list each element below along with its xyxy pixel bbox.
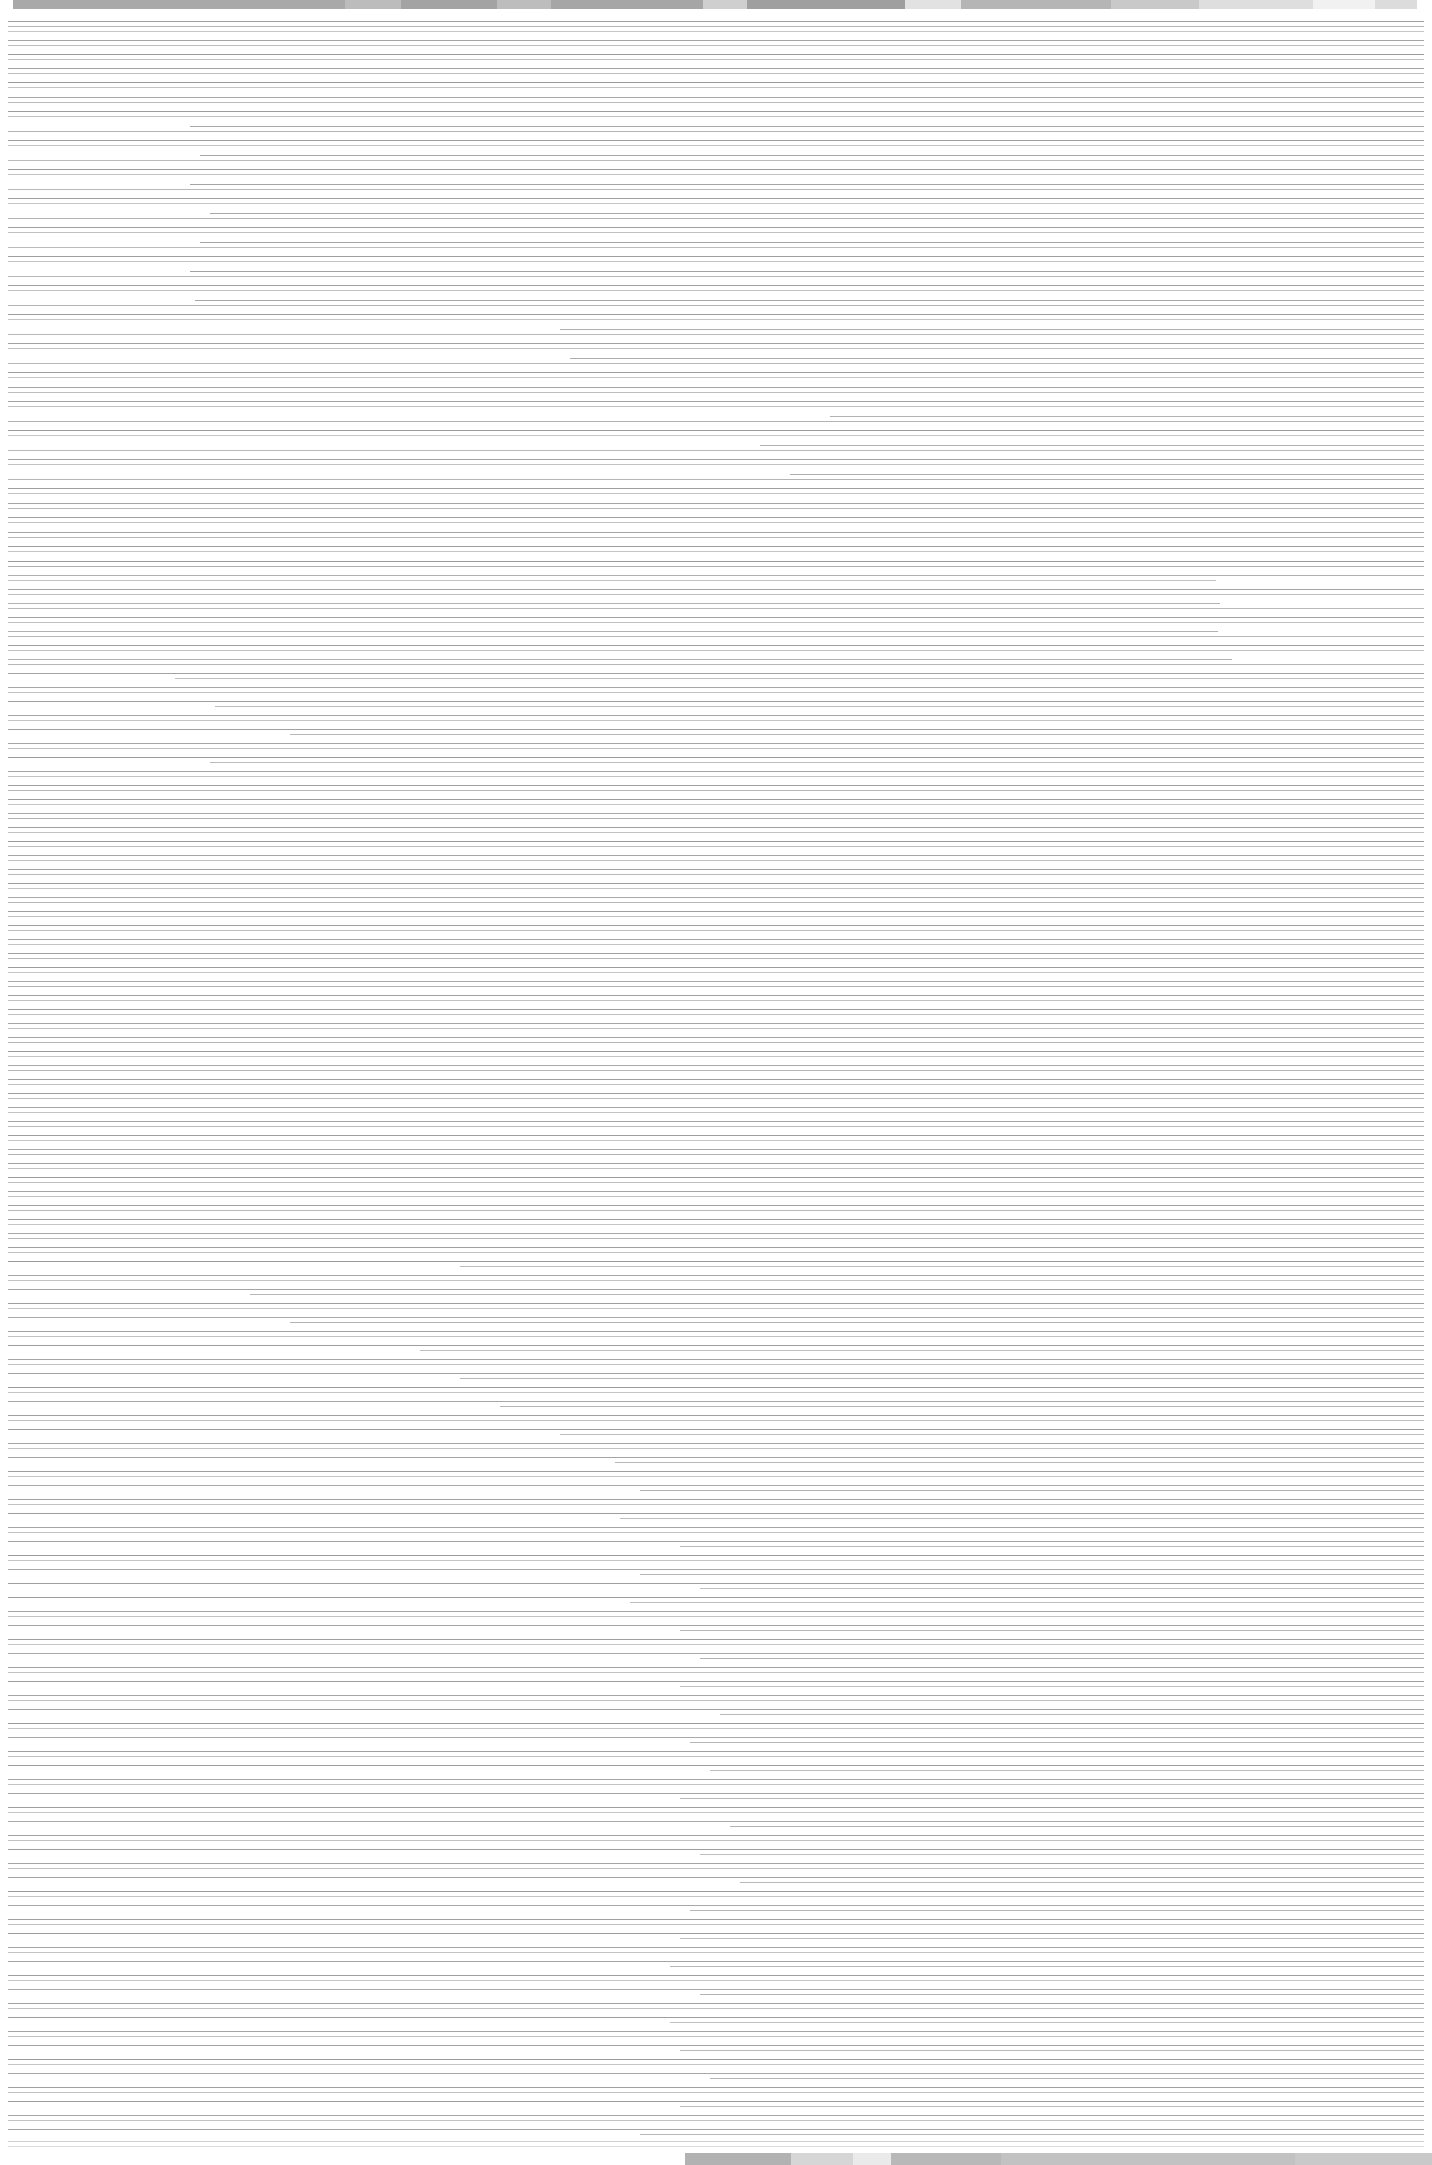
text-row-line [8, 97, 1424, 98]
text-row-line [8, 995, 1424, 996]
text-row-line [8, 169, 1424, 170]
text-row-line [8, 1471, 1424, 1472]
text-row-line [690, 1742, 1424, 1743]
text-row-line [210, 213, 1424, 214]
text-row-line [8, 232, 1424, 233]
text-row-line [8, 1947, 1424, 1948]
status-segment-1[interactable] [791, 2153, 853, 2165]
text-row-line [8, 2073, 1424, 2074]
text-row-line [8, 1070, 1424, 1071]
text-row-line [8, 1639, 1424, 1640]
status-segment-4[interactable] [1001, 2153, 1295, 2165]
text-row-line [8, 1331, 1424, 1332]
status-segment-0[interactable] [685, 2153, 791, 2165]
chrome-segment-0[interactable] [13, 0, 345, 9]
text-row-line [640, 2134, 1424, 2135]
text-row-line [8, 1056, 1424, 1057]
text-row-line [8, 26, 1424, 27]
chrome-segment-7[interactable] [905, 0, 961, 9]
text-row-line [8, 1023, 1424, 1024]
text-row-line [8, 517, 1424, 518]
chrome-segment-11[interactable] [1313, 0, 1375, 9]
text-row-line [8, 720, 1424, 721]
chrome-segment-1[interactable] [345, 0, 401, 9]
text-row-line [8, 1280, 1424, 1281]
text-row-line [8, 897, 1424, 898]
text-row-line [680, 2050, 1424, 2051]
text-row-line [8, 256, 1424, 257]
text-row-line [8, 1975, 1424, 1976]
text-row-line [8, 1364, 1424, 1365]
text-row-line [620, 1518, 1424, 1519]
chrome-segment-8[interactable] [961, 0, 1111, 9]
text-row-line [8, 701, 1424, 702]
status-bar-band[interactable] [0, 2153, 1432, 2165]
text-row-line [8, 1751, 1424, 1752]
text-row-line [8, 377, 1424, 378]
text-row-line [8, 1849, 1424, 1850]
text-row-line [8, 1121, 1424, 1122]
text-row-line [8, 1821, 1424, 1822]
text-row-line [8, 869, 1424, 870]
chrome-segment-5[interactable] [703, 0, 747, 9]
text-row-line [8, 757, 1424, 758]
chrome-segment-9[interactable] [1111, 0, 1199, 9]
text-row-line [8, 771, 1424, 772]
text-row-line [8, 1247, 1424, 1248]
text-row-line [8, 748, 1424, 749]
text-row-line [680, 2106, 1424, 2107]
text-row-line [8, 1196, 1424, 1197]
text-row-line [8, 953, 1424, 954]
chrome-segment-6[interactable] [747, 0, 905, 9]
text-row-line [8, 2101, 1424, 2102]
text-row-line [8, 140, 1424, 141]
text-row-line [190, 126, 1424, 127]
text-row-line [8, 939, 1424, 940]
text-row-line [8, 566, 1424, 567]
text-row-line [8, 1345, 1424, 1346]
text-row-line [8, 1401, 1424, 1402]
text-row-line [680, 1630, 1424, 1631]
text-row-line [8, 664, 1424, 665]
text-row-line [8, 1527, 1424, 1528]
chrome-segment-3[interactable] [497, 0, 551, 9]
text-row-line [670, 2022, 1424, 2023]
text-row-line [730, 1826, 1424, 1827]
text-row-line [8, 2087, 1424, 2088]
text-row-line [420, 1350, 1424, 1351]
text-row-line [8, 1779, 1424, 1780]
text-row-line [8, 967, 1424, 968]
text-row-line [740, 1882, 1424, 1883]
status-segment-3[interactable] [891, 2153, 1001, 2165]
text-row-line [8, 111, 1424, 112]
text-row-line [8, 1177, 1424, 1178]
text-row-line [8, 218, 1424, 219]
text-row-line [8, 2003, 1424, 2004]
text-row-line [8, 1784, 1424, 1785]
chrome-segment-2[interactable] [401, 0, 497, 9]
chrome-segment-12[interactable] [1375, 0, 1417, 9]
text-row-line [8, 1135, 1424, 1136]
status-segment-2[interactable] [853, 2153, 891, 2165]
text-row-line [8, 1952, 1424, 1953]
text-row-line [8, 1989, 1424, 1990]
text-row-line [190, 271, 1424, 272]
text-row-line [8, 1443, 1424, 1444]
chrome-segment-4[interactable] [551, 0, 703, 9]
window-chrome-band[interactable] [0, 0, 1432, 9]
text-row-line [8, 1252, 1424, 1253]
text-row-line [8, 1224, 1424, 1225]
text-row-line [8, 813, 1424, 814]
text-row-line [8, 503, 1424, 504]
text-row-line [8, 883, 1424, 884]
text-row-line [8, 2045, 1424, 2046]
text-row-line [8, 401, 1424, 402]
status-segment-5[interactable] [1295, 2153, 1432, 2165]
chrome-segment-10[interactable] [1199, 0, 1313, 9]
text-row-line [200, 155, 1424, 156]
text-row-line [8, 1009, 1424, 1010]
text-row-line [560, 329, 1424, 330]
document-text-area[interactable] [0, 9, 1432, 2152]
text-row-line [8, 1541, 1424, 1542]
text-row-line [8, 1420, 1424, 1421]
